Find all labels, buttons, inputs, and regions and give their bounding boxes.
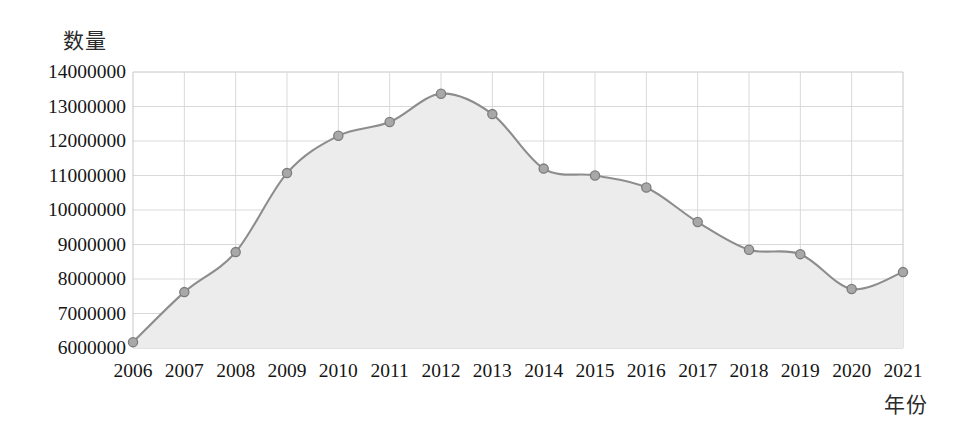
data-point-marker [693,217,702,226]
area-fill-path [133,94,903,348]
data-point-marker [436,89,445,98]
data-point-marker [128,338,137,347]
data-point-marker [539,164,548,173]
data-point-marker [385,117,394,126]
data-point-marker [796,250,805,259]
data-point-marker [180,288,189,297]
data-point-marker [847,284,856,293]
data-point-marker [231,247,240,256]
data-point-marker [488,109,497,118]
data-point-marker [334,131,343,140]
plot-area [0,0,969,430]
data-point-marker [744,245,753,254]
data-point-marker [282,168,291,177]
area-fill [133,94,903,348]
data-point-marker [590,171,599,180]
data-point-marker [642,183,651,192]
data-point-marker [898,268,907,277]
line-chart: 数量 年份 1400000013000000120000001100000010… [0,0,969,430]
